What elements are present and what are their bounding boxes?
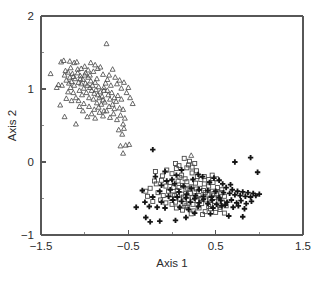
- scatter-plot: −1.5−0.50.51.5210−1Axis 1Axis 2: [0, 0, 324, 282]
- figure-container: −1.5−0.50.51.5210−1Axis 1Axis 2: [0, 0, 324, 282]
- y-axis-title: Axis 2: [6, 110, 18, 141]
- y-tick-label-2: 0: [28, 156, 34, 168]
- x-tick-label-3: 1.5: [295, 240, 311, 252]
- y-tick-label-1: 1: [28, 83, 34, 95]
- y-tick-label-0: 2: [28, 10, 34, 22]
- y-tick-label-3: −1: [21, 229, 34, 241]
- x-tick-label-0: −1.5: [30, 240, 53, 252]
- x-axis-title: Axis 1: [156, 257, 187, 269]
- x-tick-label-1: −0.5: [117, 240, 140, 252]
- x-tick-label-2: 0.5: [208, 240, 224, 252]
